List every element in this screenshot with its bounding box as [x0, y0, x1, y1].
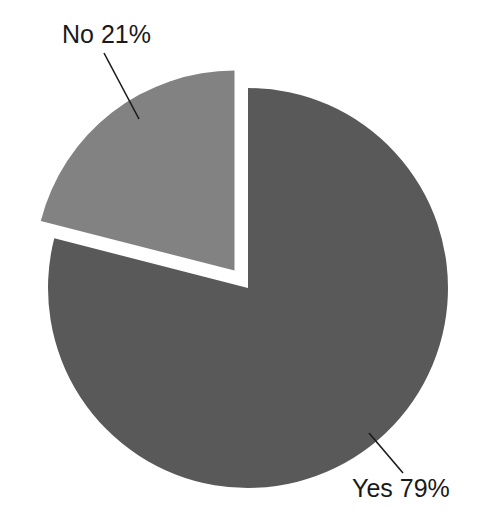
pie-chart-figure: No 21% Yes 79% — [0, 0, 477, 531]
pie-chart-svg: No 21% Yes 79% — [0, 0, 477, 531]
pie-label-no: No 21% — [62, 20, 151, 48]
pie-label-yes: Yes 79% — [352, 474, 450, 502]
